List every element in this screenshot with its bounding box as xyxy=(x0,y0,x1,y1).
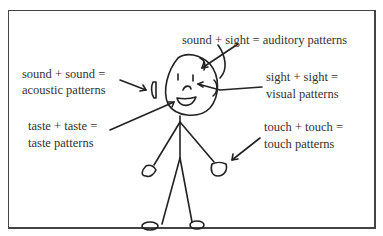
visual-label-line1: sight + sight = xyxy=(266,69,338,85)
touch-label-line1: touch + touch = xyxy=(264,119,343,135)
touch-label-line2: touch patterns xyxy=(264,136,334,152)
taste-label-line2: taste patterns xyxy=(28,135,94,151)
visual-label-line2: visual patterns xyxy=(266,86,339,102)
auditory-label: sound + sight = auditory patterns xyxy=(182,32,347,48)
body-icon xyxy=(142,116,227,230)
arrows xyxy=(110,44,262,160)
acoustic-label-line1: sound + sound = xyxy=(22,66,105,82)
acoustic-label-line2: acoustic patterns xyxy=(22,82,106,98)
taste-label-line1: taste + taste = xyxy=(28,118,97,134)
